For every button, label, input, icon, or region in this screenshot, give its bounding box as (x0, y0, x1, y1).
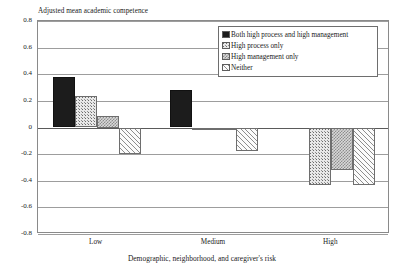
y-tick-label: -0.4 (4, 176, 32, 184)
legend-item-label: Both high process and high management (231, 31, 348, 39)
y-tick-label: 0.8 (4, 16, 32, 24)
legend-item: Neither (222, 62, 374, 73)
legend-swatch-checkerboard-icon (222, 53, 230, 60)
legend-swatch-fine-dots-icon (222, 42, 230, 49)
bar (192, 128, 214, 130)
bar (53, 77, 75, 128)
bar (170, 90, 192, 127)
x-axis-title: Demographic, neighborhood, and caregiver… (0, 254, 404, 263)
y-tick-label: 0.6 (4, 43, 32, 51)
legend-item-label: Neither (231, 64, 253, 72)
bar (75, 96, 97, 127)
y-tick-label: 0 (4, 123, 32, 131)
x-tick-label: Medium (183, 238, 243, 246)
bar (236, 128, 258, 151)
legend-swatch-diagonal-hatch-icon (222, 64, 230, 71)
legend-item-label: High process only (231, 42, 283, 50)
legend-swatch-solid-black-icon (222, 31, 230, 38)
legend-item: High management only (222, 51, 374, 62)
legend-item: Both high process and high management (222, 29, 374, 40)
gridline (38, 234, 388, 235)
bar (353, 128, 375, 185)
bar (97, 116, 119, 128)
y-tick-label: 0.4 (4, 69, 32, 77)
bar (119, 128, 141, 155)
y-tick-label: -0.8 (4, 229, 32, 237)
x-tick-label: Low (66, 238, 126, 246)
bar (309, 128, 331, 185)
x-tick-label: High (300, 238, 360, 246)
y-tick-label: -0.6 (4, 202, 32, 210)
bar-chart: Adjusted mean academic competence 0.80.6… (0, 0, 404, 271)
y-axis-title: Adjusted mean academic competence (38, 7, 148, 15)
legend-item-label: High management only (231, 53, 298, 61)
y-tick-label: 0.2 (4, 96, 32, 104)
legend-item: High process only (222, 40, 374, 51)
legend: Both high process and high management Hi… (218, 26, 378, 77)
y-tick-label: -0.2 (4, 149, 32, 157)
bar (331, 128, 353, 171)
bar (214, 128, 236, 131)
